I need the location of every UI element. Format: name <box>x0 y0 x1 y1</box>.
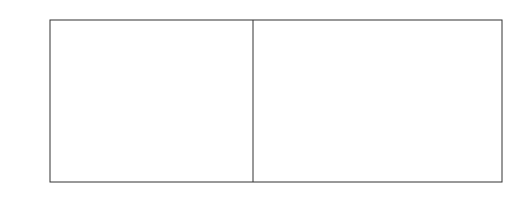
plot-frame <box>50 20 502 182</box>
contour-figure <box>0 0 519 211</box>
